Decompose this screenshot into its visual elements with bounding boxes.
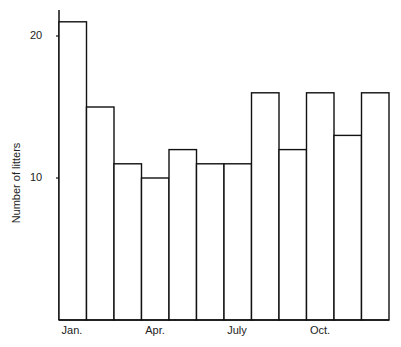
bar-june — [197, 164, 225, 320]
y-tick-label-20: 20 — [30, 29, 42, 41]
bar-july — [224, 164, 252, 320]
histogram-plot — [0, 0, 401, 347]
x-tick-label-jul: July — [227, 324, 247, 336]
bar-jan — [59, 22, 87, 320]
y-axis-label: Number of litters — [10, 143, 22, 224]
bar-sept — [279, 150, 307, 320]
x-tick-label-apr: Apr. — [145, 324, 165, 336]
y-tick-label-10: 10 — [30, 171, 42, 183]
x-tick-label-jan: Jan. — [62, 324, 83, 336]
bar-mar — [114, 164, 142, 320]
bar-dec — [362, 93, 390, 320]
bar-may — [169, 150, 197, 320]
bar-oct — [307, 93, 335, 320]
bar-apr — [142, 178, 170, 320]
bar-feb — [87, 107, 115, 320]
bar-aug — [252, 93, 280, 320]
bar-nov — [334, 135, 362, 320]
x-tick-label-oct: Oct. — [310, 324, 330, 336]
